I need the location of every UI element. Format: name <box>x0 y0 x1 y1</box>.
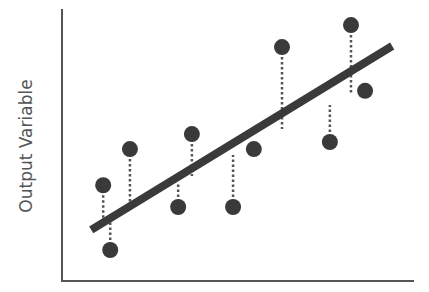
scatter-chart <box>0 0 429 292</box>
regression-line <box>91 46 392 230</box>
data-point <box>246 141 262 157</box>
data-point <box>343 17 359 33</box>
data-points <box>95 17 373 258</box>
data-point <box>274 39 290 55</box>
data-point <box>95 177 111 193</box>
data-point <box>357 83 373 99</box>
data-point <box>322 134 338 150</box>
data-point <box>122 141 138 157</box>
y-axis-label: Output Variable <box>16 79 36 212</box>
data-point <box>102 242 118 258</box>
data-point <box>225 199 241 215</box>
data-point <box>170 199 186 215</box>
data-point <box>184 126 200 142</box>
